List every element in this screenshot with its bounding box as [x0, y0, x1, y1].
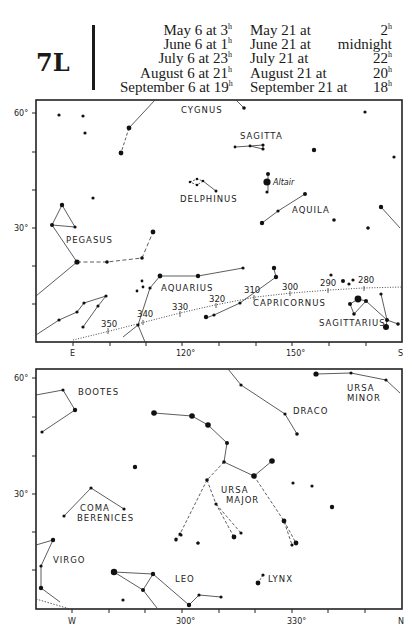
- ecliptic-350: 350: [101, 319, 117, 329]
- ecliptic-340: 340: [137, 309, 153, 319]
- label-draco: DRACO: [293, 406, 328, 416]
- star-chart-north: 60° 30° W 300° 330° N: [0, 360, 412, 631]
- label-lynx: LYNX: [268, 574, 293, 584]
- header-divider: [92, 25, 95, 90]
- y-label-60: 60°: [14, 374, 28, 383]
- chart-page-id: 7L: [36, 48, 70, 77]
- time-row: August 21 at20h: [250, 66, 392, 80]
- ecliptic-300: 300: [282, 282, 298, 292]
- time-row: September 21 at18h: [250, 80, 392, 94]
- x-label-300: 300°: [176, 617, 195, 626]
- ecliptic-290: 290: [320, 278, 336, 288]
- label-coma-berenices-2: BERENICES: [77, 513, 134, 523]
- label-delphinus: DELPHINUS: [180, 194, 238, 204]
- label-aquarius: AQUARIUS: [161, 283, 213, 293]
- x-label-120: 120°: [176, 349, 195, 358]
- x-label-e: E: [70, 349, 75, 358]
- ecliptic-280: 280: [358, 275, 374, 285]
- ecliptic-310: 310: [244, 285, 260, 295]
- label-virgo: VIRGO: [53, 555, 86, 565]
- time-row: August 6 at 21h: [120, 66, 232, 80]
- label-aquila: AQUILA: [292, 205, 330, 215]
- ecliptic-320: 320: [209, 294, 225, 304]
- viewing-times-left: May 6 at 3h June 6 at 1h July 6 at 23h A…: [120, 23, 232, 94]
- x-label-s: S: [398, 349, 403, 358]
- label-ursa-major-2: MAJOR: [226, 495, 259, 505]
- time-row: June 6 at 1h: [120, 37, 232, 51]
- time-row: July 21 at22h: [250, 51, 392, 65]
- star-chart-south: 60° 30° E 120° 150° S: [0, 95, 412, 360]
- label-altair: Altair: [272, 178, 295, 187]
- label-capricornus: CAPRICORNUS: [253, 298, 326, 308]
- label-ursa-major-1: URSA: [221, 485, 249, 495]
- time-row: July 6 at 23h: [120, 51, 232, 65]
- time-row: June 21 atmidnight: [250, 37, 392, 51]
- label-sagittarius: SAGITTARIUS: [319, 318, 386, 328]
- x-label-150: 150°: [286, 349, 305, 358]
- ecliptic-330: 330: [172, 302, 188, 312]
- label-sagitta: SAGITTA: [240, 131, 283, 141]
- label-pegasus: PEGASUS: [66, 235, 113, 245]
- label-ursa-minor-1: URSA: [347, 383, 375, 393]
- chart-frame: [36, 100, 402, 342]
- time-row: May 6 at 3h: [120, 23, 232, 37]
- y-label-30: 30°: [14, 224, 28, 233]
- y-label-30: 30°: [14, 490, 28, 499]
- x-label-330: 330°: [287, 617, 306, 626]
- viewing-times-right: May 21 at2h June 21 atmidnight July 21 a…: [250, 23, 392, 94]
- altair-star: [263, 178, 270, 185]
- time-row: May 21 at2h: [250, 23, 392, 37]
- time-row: September 6 at 19h: [120, 80, 232, 94]
- label-bootes: BOOTES: [78, 387, 119, 397]
- label-ursa-minor-2: MINOR: [347, 393, 381, 403]
- label-coma-berenices-1: COMA: [80, 503, 110, 513]
- label-cygnus: CYGNUS: [181, 105, 223, 115]
- y-label-60: 60°: [14, 109, 28, 118]
- x-label-n: N: [398, 617, 404, 626]
- x-label-w: W: [68, 617, 76, 626]
- label-leo: LEO: [175, 574, 195, 584]
